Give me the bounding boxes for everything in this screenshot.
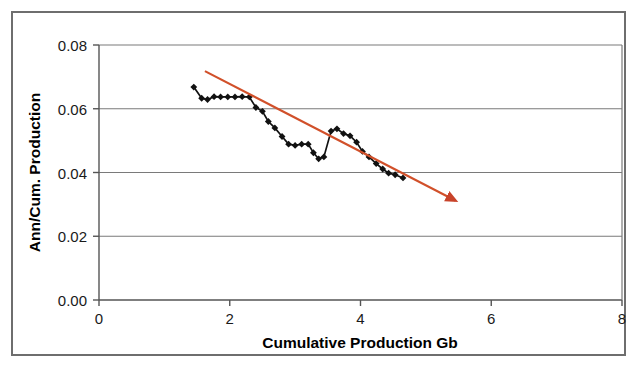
x-tick-label-2: 2 bbox=[226, 310, 234, 327]
x-tick-label-8: 8 bbox=[618, 310, 626, 327]
data-point-marker bbox=[217, 94, 224, 101]
y-tick-label-0.06: 0.06 bbox=[58, 101, 87, 118]
data-line-path bbox=[194, 87, 403, 178]
data-series-layer bbox=[190, 71, 455, 200]
y-axis-title: Ann/Cum. Production bbox=[26, 93, 43, 252]
data-point-marker bbox=[239, 93, 246, 100]
series-trendline bbox=[205, 71, 455, 200]
x-tick-label-0: 0 bbox=[95, 310, 103, 327]
series-data bbox=[190, 84, 406, 182]
y-tick-label-0.04: 0.04 bbox=[58, 165, 87, 182]
data-point-marker bbox=[292, 142, 299, 149]
chart-figure: 0.08 0.06 0.04 0.02 0.00 0 2 4 6 8 Ann/C… bbox=[0, 0, 639, 369]
chart-canvas: 0.08 0.06 0.04 0.02 0.00 0 2 4 6 8 Ann/C… bbox=[0, 0, 639, 369]
data-point-marker bbox=[204, 96, 211, 103]
data-point-marker bbox=[224, 94, 231, 101]
x-tick-label-6: 6 bbox=[487, 310, 495, 327]
gridlines bbox=[99, 45, 622, 236]
x-tick-marks bbox=[99, 300, 622, 306]
data-point-marker bbox=[298, 141, 305, 148]
y-tick-marks bbox=[93, 45, 99, 300]
x-axis-title: Cumulative Production Gb bbox=[262, 334, 457, 351]
data-point-marker bbox=[211, 93, 218, 100]
trendline-path bbox=[205, 71, 455, 200]
x-tick-label-4: 4 bbox=[356, 310, 364, 327]
y-tick-label-0.02: 0.02 bbox=[58, 228, 87, 245]
y-tick-label-0.08: 0.08 bbox=[58, 37, 87, 54]
data-point-marker bbox=[328, 128, 335, 135]
data-point-marker bbox=[232, 94, 239, 101]
y-tick-label-0.00: 0.00 bbox=[58, 292, 87, 309]
